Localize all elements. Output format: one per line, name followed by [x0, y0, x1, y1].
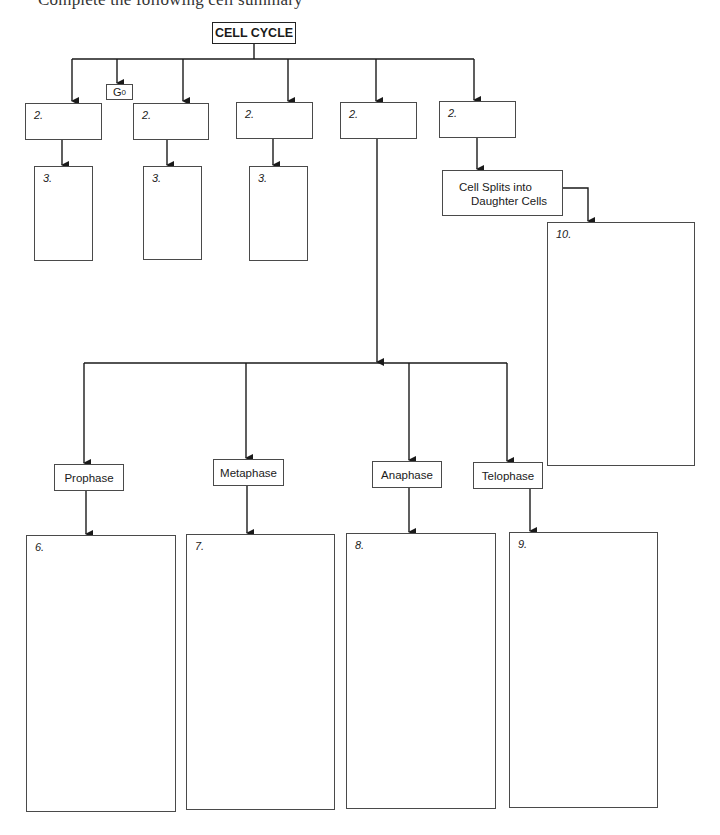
answer-number: 10. [556, 228, 571, 240]
answer-number: 6. [35, 541, 44, 553]
metaphase-answer-box[interactable]: 7. [186, 534, 335, 810]
answer-number: 3. [258, 172, 267, 184]
answer-number: 7. [195, 540, 204, 552]
prophase-answer-box[interactable]: 6. [26, 535, 176, 812]
detail-answer-box-1[interactable]: 3. [34, 166, 93, 261]
answer-number: 2. [34, 109, 43, 121]
telophase-box: Telophase [473, 462, 543, 489]
stage-answer-box-3[interactable]: 2. [236, 102, 313, 139]
answer-number: 8. [355, 539, 364, 551]
stage-answer-box-2[interactable]: 2. [133, 103, 209, 140]
stage-answer-box-1[interactable]: 2. [25, 103, 102, 140]
cytokinesis-answer-box[interactable]: 10. [547, 222, 695, 466]
telophase-answer-box[interactable]: 9. [509, 532, 658, 808]
cell-cycle-title-box: CELL CYCLE [212, 22, 296, 44]
cell-splits-line1: Cell Splits into [459, 180, 562, 194]
cell-splits-box: Cell Splits into Daughter Cells [442, 170, 563, 216]
answer-number: 2. [448, 107, 457, 119]
cell-splits-line2: Daughter Cells [459, 194, 562, 208]
anaphase-answer-box[interactable]: 8. [346, 533, 496, 809]
detail-answer-box-2[interactable]: 3. [143, 166, 202, 260]
detail-answer-box-3[interactable]: 3. [249, 166, 308, 261]
metaphase-box: Metaphase [213, 459, 284, 486]
stage-answer-box-4[interactable]: 2. [340, 102, 417, 139]
answer-number: 3. [152, 172, 161, 184]
answer-number: 2. [142, 109, 151, 121]
prophase-box: Prophase [54, 464, 124, 491]
answer-number: 2. [245, 108, 254, 120]
answer-number: 9. [518, 538, 527, 550]
g0-box: G0 [106, 84, 133, 100]
answer-number: 3. [43, 172, 52, 184]
stage-answer-box-5[interactable]: 2. [439, 101, 516, 138]
answer-number: 2. [349, 108, 358, 120]
g0-label: G [113, 86, 122, 98]
g0-subscript: 0 [122, 88, 126, 97]
anaphase-box: Anaphase [372, 461, 442, 488]
